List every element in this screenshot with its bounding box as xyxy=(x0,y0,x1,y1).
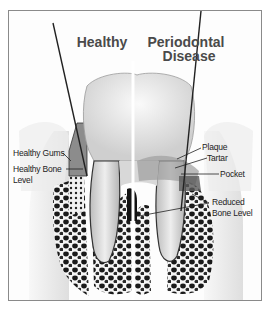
label-pocket: Pocket xyxy=(220,169,245,179)
title-periodontal-disease-line2: Disease xyxy=(149,49,229,64)
label-healthy-gums: Healthy Gums xyxy=(13,148,64,158)
label-reduced-bone-line2: Bone Level xyxy=(212,208,253,218)
label-healthy-bone-line1: Healthy Bone xyxy=(13,164,62,174)
label-reduced-bone-line1: Reduced xyxy=(212,197,245,207)
diagram-frame: Healthy Periodontal Disease Healthy Gums… xyxy=(8,10,262,301)
label-tartar: Tartar xyxy=(207,153,228,163)
title-healthy: Healthy xyxy=(67,35,137,50)
label-plaque: Plaque xyxy=(202,142,227,152)
label-healthy-bone-line2: Level xyxy=(13,175,32,185)
